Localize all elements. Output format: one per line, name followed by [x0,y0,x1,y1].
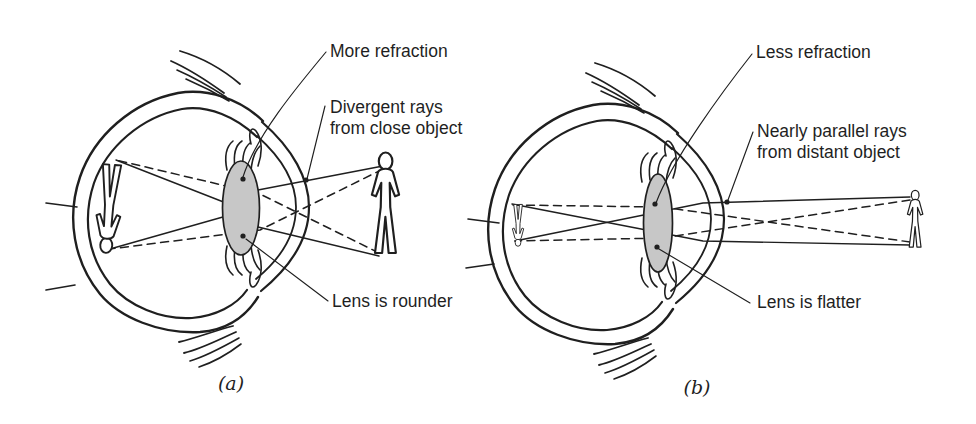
marker-dot-lens-top-b [652,201,657,206]
lens-rounder-shape [223,161,260,255]
marker-dot-lens-bottom-a [240,233,245,238]
marker-dot-ray-b [724,199,729,204]
label-less-refraction: Less refraction [756,42,871,62]
label-divergent-rays-line2: from close object [330,118,462,138]
leader-nearly-parallel-rays [728,132,753,200]
retina-image-person-a [94,164,124,254]
lens-flatter-shape [644,174,673,272]
eyeball-outline-b [488,63,724,379]
leader-divergent-rays [307,106,325,179]
label-more-refraction: More refraction [330,41,448,61]
marker-dot-ray-a [303,177,308,182]
caption-b: (b) [684,376,711,398]
sclera-break-tick-bottom-a [46,285,75,290]
label-parallel-rays-line2: from distant object [757,142,900,162]
leader-lens-rounder [246,239,328,301]
eye-accommodation-figure: More refraction Divergent rays from clos… [0,0,976,424]
marker-dot-lens-top-a [240,176,245,181]
panel-a: More refraction Divergent rays from clos… [46,41,462,394]
caption-a: (a) [218,372,244,394]
marker-dot-lens-bottom-b [654,244,659,249]
label-lens-flatter: Lens is flatter [757,292,861,312]
label-lens-rounder: Lens is rounder [332,291,453,311]
leader-less-refraction [656,54,752,203]
panel-b: Less refraction Nearly parallel rays fro… [466,42,923,398]
figure-canvas: More refraction Divergent rays from clos… [0,0,976,424]
sclera-break-tick-top-a [46,203,77,207]
ray-solid-from-head-b [515,197,910,241]
object-person-distant [907,190,922,247]
sclera-break-tick-top-b [468,219,499,223]
sclera-break-tick-bottom-b [466,264,494,268]
label-parallel-rays-line1: Nearly parallel rays [757,121,907,141]
label-divergent-rays-line1: Divergent rays [330,97,443,117]
